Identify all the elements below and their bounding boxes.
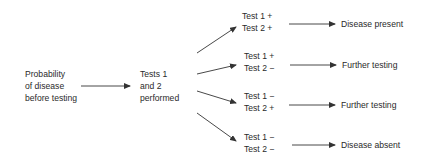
arrow-branch-3: [197, 91, 236, 103]
arrow-branch-2: [197, 65, 236, 74]
test2-result: Test 2 −: [244, 62, 274, 74]
outcome-disease-absent: Disease absent: [341, 139, 400, 151]
tests-line: and 2: [140, 80, 179, 92]
start-line: of disease: [25, 80, 77, 92]
test2-result: Test 2 −: [244, 143, 274, 155]
branch-3-results: Test 1 − Test 2 +: [244, 90, 274, 114]
test1-result: Test 1 −: [244, 131, 274, 143]
test1-result: Test 1 +: [242, 10, 272, 22]
outcome-further-testing-1: Further testing: [342, 59, 397, 71]
tests-line: Tests 1: [140, 68, 179, 80]
test2-result: Test 2 +: [244, 102, 274, 114]
arrow-branch-4: [197, 113, 236, 141]
test2-result: Test 2 +: [242, 22, 272, 34]
outcome-further-testing-2: Further testing: [341, 99, 396, 111]
test1-result: Test 1 +: [244, 50, 274, 62]
branch-4-results: Test 1 − Test 2 −: [244, 131, 274, 155]
tests-line: performed: [140, 92, 179, 104]
start-line: before testing: [25, 92, 77, 104]
branch-2-results: Test 1 + Test 2 −: [244, 50, 274, 74]
branch-1-results: Test 1 + Test 2 +: [242, 10, 272, 34]
tests-node: Tests 1 and 2 performed: [140, 68, 179, 104]
start-node: Probability of disease before testing: [25, 68, 77, 104]
test1-result: Test 1 −: [244, 90, 274, 102]
arrow-branch-1: [197, 27, 236, 53]
outcome-disease-present: Disease present: [341, 18, 403, 30]
start-line: Probability: [25, 68, 77, 80]
